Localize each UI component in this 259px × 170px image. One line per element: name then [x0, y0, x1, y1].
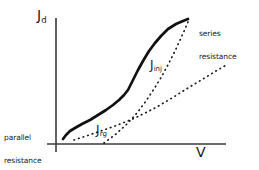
- curve-label-jinj: Jinj: [150, 59, 161, 71]
- curve-label-jinj-main: J: [150, 58, 153, 72]
- annotation-series-resistance: series resistance: [199, 15, 236, 76]
- curve-label-jrg-subscript: rg: [100, 130, 107, 138]
- annotation-parallel-resistance-line2: resistance: [4, 157, 41, 165]
- curve-jinj-dotted: [104, 22, 188, 143]
- figure-canvas: Jd V parallel resistance series resistan…: [0, 0, 259, 170]
- annotation-parallel-resistance-line1: parallel: [4, 134, 41, 142]
- curve-label-jrg: Jrg: [96, 124, 106, 136]
- curve-total-solid: [63, 19, 188, 139]
- y-axis-label: Jd: [37, 8, 46, 22]
- annotation-parallel-resistance: parallel resistance: [4, 119, 41, 170]
- annotation-series-resistance-line2: resistance: [199, 53, 236, 61]
- curve-label-jinj-subscript: inj: [154, 65, 162, 73]
- y-axis-label-subscript: d: [41, 15, 46, 25]
- x-axis-label: V: [196, 145, 205, 159]
- curve-label-jrg-main: J: [96, 123, 99, 137]
- annotation-series-resistance-line1: series: [199, 30, 236, 38]
